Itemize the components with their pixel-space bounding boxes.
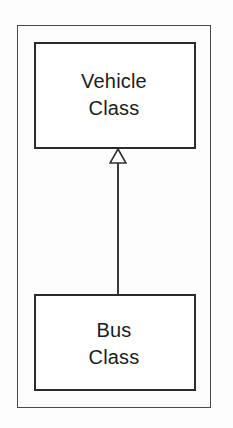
- class-name-vehicle: Vehicle: [81, 68, 147, 95]
- class-label-stack-bus: Bus Class: [88, 317, 139, 371]
- class-stereotype-bus: Class: [88, 344, 139, 371]
- class-box-vehicle[interactable]: Vehicle Class: [34, 42, 196, 149]
- class-name-bus: Bus: [96, 317, 131, 344]
- diagram-canvas: Vehicle Class Bus Class: [0, 0, 233, 428]
- class-box-bus[interactable]: Bus Class: [34, 294, 196, 391]
- class-label-stack-vehicle: Vehicle Class: [81, 68, 147, 122]
- class-stereotype-vehicle: Class: [88, 95, 139, 122]
